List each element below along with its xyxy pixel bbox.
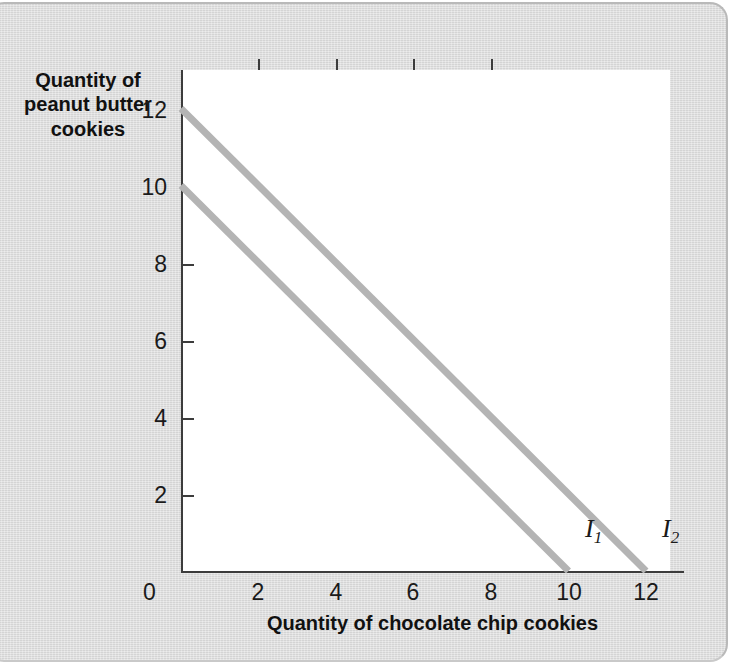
x-tick-6 xyxy=(413,59,415,70)
x-tick-label-10: 10 xyxy=(556,579,582,606)
y-tick-label-8: 8 xyxy=(154,251,167,278)
origin-tick-label-0: 0 xyxy=(143,579,156,606)
curve-label-i2-sub: 2 xyxy=(671,528,680,547)
y-tick-label-10: 10 xyxy=(141,174,167,201)
curve-label-i1-sub: 1 xyxy=(594,528,603,547)
x-tick-label-8: 8 xyxy=(485,579,498,606)
curve-label-i2-letter: I xyxy=(662,514,671,543)
y-axis-title-line-1: Quantity of xyxy=(8,68,168,92)
x-axis-title: Quantity of chocolate chip cookies xyxy=(181,612,684,635)
x-tick-label-2: 2 xyxy=(252,579,265,606)
budget-lines xyxy=(181,70,670,573)
y-tick-label-6: 6 xyxy=(154,328,167,355)
curve-label-i2: I2 xyxy=(662,514,679,548)
x-tick-label-6: 6 xyxy=(407,579,420,606)
x-tick-4 xyxy=(336,59,338,70)
line-i1 xyxy=(181,186,569,572)
y-tick-label-12: 12 xyxy=(141,97,167,124)
x-tick-8 xyxy=(491,59,493,70)
plot-area: 12 10 8 6 4 2 0 2 4 6 8 10 12 I1 I2 xyxy=(181,70,670,573)
curve-label-i1-letter: I xyxy=(585,514,594,543)
y-tick-label-4: 4 xyxy=(154,405,167,432)
x-tick-label-4: 4 xyxy=(330,579,343,606)
y-tick-label-2: 2 xyxy=(154,482,167,509)
curve-label-i1: I1 xyxy=(585,514,602,548)
chart-figure: Quantity of peanut butter cookies Quanti… xyxy=(0,0,736,670)
x-tick-label-6x: 12 xyxy=(633,579,659,606)
x-tick-2 xyxy=(258,59,260,70)
line-i2 xyxy=(181,108,646,571)
